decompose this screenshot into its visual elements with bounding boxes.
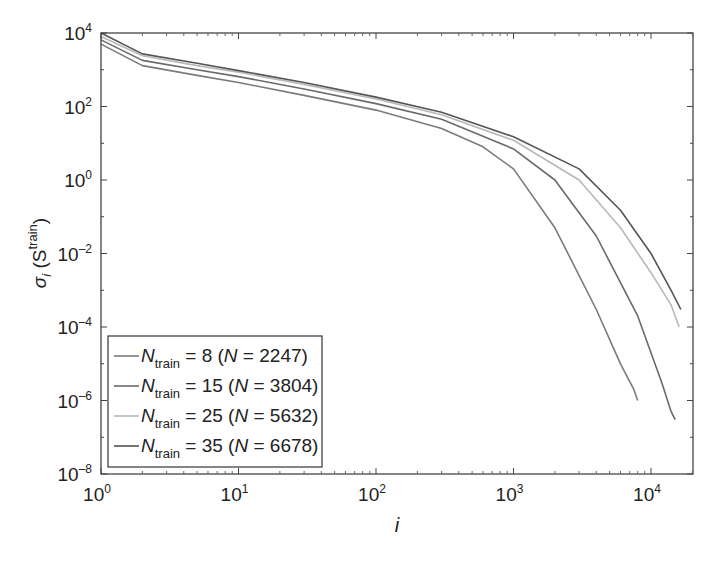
x-tick-labels: 100101102103104 [83, 482, 661, 505]
x-tick-label: 101 [221, 482, 249, 505]
y-tick-label: 10–8 [58, 462, 93, 485]
chart: 100101102103104 10410210010–210–410–610–… [0, 0, 725, 566]
y-tick-label: 10–2 [58, 242, 93, 265]
svg-text:σi (Strain): σi (Strain) [25, 218, 54, 288]
y-tick-label: 10–4 [58, 315, 93, 338]
x-tick-label: 102 [358, 482, 386, 505]
x-tick-label: 100 [83, 482, 111, 505]
x-tick-label: 104 [633, 482, 661, 505]
x-axis-title: i [395, 514, 400, 536]
y-tick-label: 100 [64, 168, 92, 191]
legend: Ntrain = 8 (N = 2247)Ntrain = 15 (N = 38… [108, 336, 322, 467]
y-tick-label: 10–6 [58, 389, 93, 412]
x-tick-label: 103 [496, 482, 524, 505]
y-tick-label: 104 [64, 21, 92, 44]
y-tick-label: 102 [64, 95, 92, 118]
y-axis-title: σi (Strain) [25, 218, 54, 288]
y-tick-labels: 10410210010–210–410–610–8 [58, 21, 93, 485]
